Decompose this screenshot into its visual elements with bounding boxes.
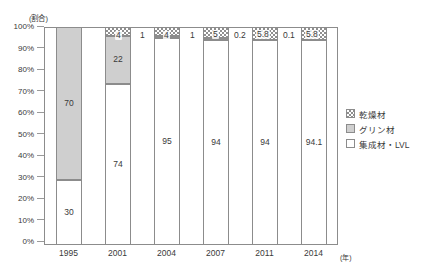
segment-value-green-2004: 1: [140, 31, 145, 40]
tick-dash: [37, 133, 44, 134]
tick-dash: [37, 69, 44, 70]
bar-group-2014: 94.1 0.1 5.8: [289, 27, 338, 245]
segment-laminated-2007[interactable]: 94: [203, 40, 229, 245]
bar-2014: 94.1: [301, 27, 327, 245]
segment-value: 94: [210, 138, 221, 147]
y-tick-label: 90%: [18, 44, 34, 53]
bar-2011: 94: [252, 27, 278, 245]
y-tick-label: 0%: [22, 237, 34, 246]
x-tick-1995: 1995: [44, 248, 93, 258]
bar-group-1995: 30 70: [44, 27, 93, 245]
x-tick-2014: 2014: [289, 248, 338, 258]
legend-label: 集成材・LVL: [359, 138, 410, 150]
legend-item-green[interactable]: グリン材: [346, 121, 426, 136]
segment-green-2001[interactable]: 22: [105, 36, 131, 84]
segment-green-1995[interactable]: 70: [56, 27, 82, 180]
bar-2001: 74 22: [105, 27, 131, 245]
segment-laminated-2014[interactable]: 94.1: [301, 40, 327, 245]
y-tick-label: 50%: [18, 130, 34, 139]
segment-laminated-2011[interactable]: 94: [252, 40, 278, 245]
y-tick-90: 90%: [0, 44, 44, 54]
segment-laminated-1995[interactable]: 30: [56, 180, 82, 245]
bar-1995: 30 70: [56, 27, 82, 245]
legend-item-dried[interactable]: 乾燥材: [346, 106, 426, 121]
gray-swatch-icon: [346, 124, 355, 133]
y-tick-40: 40%: [0, 151, 44, 161]
x-axis-unit-label: (年): [340, 252, 352, 262]
y-tick-80: 80%: [0, 65, 44, 75]
legend-item-laminated[interactable]: 集成材・LVL: [346, 136, 426, 151]
y-tick-70: 70%: [0, 87, 44, 97]
segment-value-green-2014: 0.1: [283, 31, 295, 40]
y-tick-label: 60%: [18, 108, 34, 117]
x-tick-2011: 2011: [240, 248, 289, 258]
segment-value-green-2011: 0.2: [234, 31, 246, 40]
y-tick-60: 60%: [0, 108, 44, 118]
legend-label: グリン材: [359, 123, 395, 135]
segment-value: 94: [259, 138, 270, 147]
bar-group-2004: 95 1 4: [142, 27, 191, 245]
segment-value: 30: [63, 208, 74, 217]
y-tick-10: 10%: [0, 216, 44, 226]
stacked-bar-chart: (割合) 100% 90% 80% 70% 60% 50% 40% 30% 20…: [0, 0, 428, 274]
plot-area: 30 70 74 22 4: [44, 27, 338, 245]
y-tick-label: 100%: [14, 22, 34, 31]
segment-value-dried-2007: 5: [212, 30, 219, 39]
legend-label: 乾燥材: [359, 108, 386, 120]
x-axis: 1995 2001 2004 2007 2011 2014: [44, 248, 338, 262]
tick-dash: [37, 112, 44, 113]
tick-dash: [37, 90, 44, 91]
y-tick-label: 10%: [18, 216, 34, 225]
segment-value-green-2007: 1: [190, 31, 195, 40]
y-tick-30: 30%: [0, 173, 44, 183]
y-tick-label: 40%: [18, 151, 34, 160]
y-tick-label: 70%: [18, 87, 34, 96]
y-tick-20: 20%: [0, 194, 44, 204]
segment-value: 74: [112, 160, 123, 169]
x-tick-2004: 2004: [142, 248, 191, 258]
x-tick-2007: 2007: [191, 248, 240, 258]
segment-value: 95: [161, 137, 172, 146]
y-axis: 100% 90% 80% 70% 60% 50% 40% 30% 20% 10%…: [0, 22, 44, 250]
y-tick-label: 20%: [18, 194, 34, 203]
bar-group-2011: 94 0.2 5.8: [240, 27, 289, 245]
segment-value: 22: [112, 55, 123, 64]
tick-dash: [37, 155, 44, 156]
tick-dash: [37, 47, 44, 48]
tick-dash: [37, 241, 44, 242]
legend: 乾燥材 グリン材 集成材・LVL: [346, 106, 426, 151]
segment-value-dried-2004: 4: [163, 31, 170, 40]
checker-swatch-icon: [346, 109, 355, 118]
tick-dash: [37, 219, 44, 220]
x-tick-2001: 2001: [93, 248, 142, 258]
y-tick-100: 100%: [0, 22, 44, 32]
tick-dash: [37, 176, 44, 177]
segment-value-dried-2011: 5.8: [256, 30, 270, 39]
segment-value-dried-2001: 4: [115, 31, 122, 40]
y-tick-label: 80%: [18, 65, 34, 74]
tick-dash: [37, 26, 44, 27]
bar-2004: 95: [154, 27, 180, 245]
y-tick-0: 0%: [0, 237, 44, 247]
bar-2007: 94: [203, 27, 229, 245]
segment-laminated-2001[interactable]: 74: [105, 84, 131, 245]
y-tick-label: 30%: [18, 173, 34, 182]
y-tick-50: 50%: [0, 130, 44, 140]
segment-value: 94.1: [305, 138, 324, 147]
bar-group-2001: 74 22 4: [93, 27, 142, 245]
bar-group-2007: 94 1 5: [191, 27, 240, 245]
segment-value: 70: [63, 99, 74, 108]
tick-dash: [37, 198, 44, 199]
white-swatch-icon: [346, 139, 355, 148]
segment-value-dried-2014: 5.8: [305, 30, 319, 39]
segment-laminated-2004[interactable]: 95: [154, 38, 180, 245]
